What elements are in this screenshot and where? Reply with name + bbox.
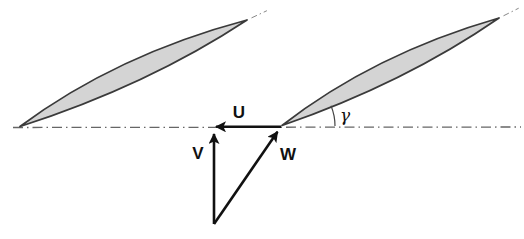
vector-w-line <box>214 132 278 224</box>
vector-w <box>214 132 278 224</box>
label-gamma: γ <box>340 105 351 125</box>
blade-left-airfoil <box>20 20 247 127</box>
blade-left-chord-extension <box>252 11 267 18</box>
label-v: V <box>192 144 204 163</box>
diagram-svg: U V W γ <box>0 0 524 239</box>
label-u: U <box>233 103 245 122</box>
blade-right-chord-extension <box>504 8 519 16</box>
blade-left <box>20 11 267 127</box>
label-w: W <box>280 145 297 164</box>
blade-right-airfoil <box>282 18 499 126</box>
blade-right <box>282 8 519 125</box>
velocity-triangle-diagram: U V W γ <box>0 0 524 239</box>
gamma-angle-arc <box>331 106 335 126</box>
